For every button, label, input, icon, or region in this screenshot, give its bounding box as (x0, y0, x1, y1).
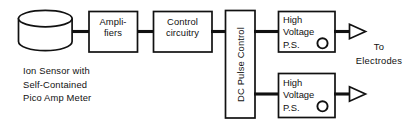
to-electrodes-label: To Electrodes (345, 40, 413, 68)
control-circuitry-label: Control circuitry (156, 16, 209, 39)
dc-pulse-control-label-text: DC Pulse Control (235, 27, 246, 102)
high-voltage-ps-upper-label: High Voltage P.S. (283, 14, 314, 51)
ion-sensor-cylinder (19, 10, 73, 50)
ion-sensor-caption: Ion Sensor with Self-Contained Pico Amp … (23, 64, 91, 105)
high-voltage-ps-lower-label: High Voltage P.S. (283, 77, 314, 114)
amplifiers-label: Ampli- fiers (93, 16, 133, 39)
output-arrow-lower (334, 87, 366, 101)
dc-pulse-control-label: DC Pulse Control (225, 10, 255, 118)
output-arrow-upper (334, 24, 366, 38)
block-diagram: Ampli- fiers Control circuitry DC Pulse … (0, 0, 417, 126)
hv-upper-knob-icon (317, 38, 327, 48)
hv-lower-knob-icon (317, 101, 327, 111)
